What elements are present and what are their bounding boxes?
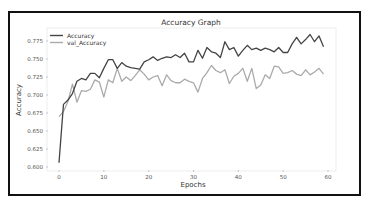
y-tick-label: 0.675 — [27, 110, 43, 116]
plot-area — [47, 28, 336, 171]
x-tick-label: 10 — [100, 174, 107, 180]
legend-label-val-accuracy: val_Accuracy — [67, 39, 107, 47]
x-axis: 0102030405060 — [57, 170, 332, 180]
y-tick-label: 0.600 — [27, 164, 43, 170]
x-tick-label: 40 — [235, 174, 242, 180]
x-axis-label: Epochs — [180, 181, 205, 189]
y-axis: 0.6000.6250.6500.6750.7000.7250.7500.775 — [27, 38, 48, 170]
x-tick-label: 60 — [325, 174, 332, 180]
x-tick-label: 0 — [57, 174, 61, 180]
y-axis-label: Accuracy — [15, 84, 23, 116]
x-tick-label: 50 — [280, 174, 287, 180]
y-tick-label: 0.775 — [27, 38, 43, 44]
accuracy-chart: Accuracy Graph 0.6000.6250.6500.6750.700… — [0, 0, 368, 201]
chart-title: Accuracy Graph — [161, 18, 221, 27]
x-tick-label: 30 — [190, 174, 197, 180]
y-tick-label: 0.700 — [27, 92, 43, 98]
y-tick-label: 0.750 — [27, 56, 43, 62]
y-tick-label: 0.625 — [27, 146, 43, 152]
y-tick-label: 0.725 — [27, 74, 43, 80]
y-tick-label: 0.650 — [27, 128, 43, 134]
x-tick-label: 20 — [145, 174, 152, 180]
